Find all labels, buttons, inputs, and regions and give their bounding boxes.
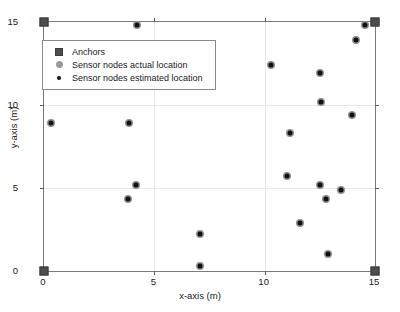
legend-box: Anchors Sensor nodes actual location Sen… [42, 40, 216, 90]
estimated-node-point [288, 131, 293, 136]
anchor-point [40, 267, 49, 276]
gridline-horizontal [44, 188, 375, 189]
estimated-node-point [197, 232, 202, 237]
estimated-node-point [134, 23, 139, 28]
scatter-plot-figure: x-axis (m) y-axis (m) Anchors Sensor nod… [0, 0, 400, 312]
legend-label-actual: Sensor nodes actual location [69, 60, 188, 70]
y-tick-mark [375, 188, 379, 189]
x-tick-mark [154, 18, 155, 22]
y-tick-mark [375, 105, 379, 106]
anchor-point [371, 18, 380, 27]
estimated-node-point [318, 99, 323, 104]
estimated-node-point [297, 220, 302, 225]
x-tick-label: 5 [151, 276, 156, 287]
estimated-node-point [133, 182, 138, 187]
x-tick-label: 0 [40, 276, 45, 287]
estimated-node-point [284, 174, 289, 179]
estimated-node-point [317, 182, 322, 187]
y-tick-mark [40, 105, 44, 106]
y-tick-label: 0 [13, 265, 18, 276]
x-axis-title: x-axis (m) [0, 290, 400, 301]
x-tick-label: 15 [369, 276, 380, 287]
estimated-node-point [325, 252, 330, 257]
x-tick-mark [265, 271, 266, 275]
y-tick-label: 10 [7, 99, 18, 110]
y-axis-title: y-axis (m) [8, 68, 19, 188]
estimated-node-point [48, 121, 53, 126]
estimated-node-point [125, 196, 130, 201]
estimated-dot-marker-icon [49, 76, 69, 80]
legend-item-anchors: Anchors [49, 45, 209, 58]
gridline-horizontal [44, 105, 375, 106]
actual-circle-marker-icon [49, 61, 69, 68]
estimated-node-point [324, 196, 329, 201]
estimated-node-point [269, 63, 274, 68]
legend-item-estimated: Sensor nodes estimated location [49, 71, 209, 84]
y-tick-label: 5 [13, 182, 18, 193]
estimated-node-point [338, 187, 343, 192]
estimated-node-point [363, 23, 368, 28]
estimated-node-point [126, 121, 131, 126]
y-tick-label: 15 [7, 16, 18, 27]
estimated-node-point [317, 71, 322, 76]
x-tick-label: 10 [258, 276, 269, 287]
anchor-point [40, 18, 49, 27]
legend-label-estimated: Sensor nodes estimated location [69, 73, 203, 83]
x-tick-mark [265, 18, 266, 22]
y-tick-mark [40, 188, 44, 189]
estimated-node-point [354, 38, 359, 43]
gridline-vertical [265, 22, 266, 271]
legend-item-actual: Sensor nodes actual location [49, 58, 209, 71]
legend-label-anchors: Anchors [69, 47, 105, 57]
estimated-node-point [349, 112, 354, 117]
estimated-node-point [197, 264, 202, 269]
anchor-point [371, 267, 380, 276]
x-tick-mark [154, 271, 155, 275]
anchor-square-marker-icon [49, 48, 69, 56]
